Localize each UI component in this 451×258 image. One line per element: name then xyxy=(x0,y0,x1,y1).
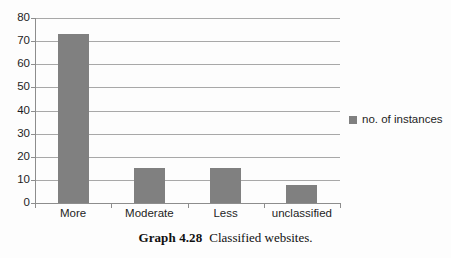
y-axis-line xyxy=(35,18,36,204)
y-axis-tick xyxy=(31,157,36,158)
bar-series-no-of-instances xyxy=(35,18,340,203)
y-axis-tick-label: 10 xyxy=(17,174,30,186)
y-axis-tick-label: 40 xyxy=(17,105,30,117)
bar xyxy=(286,185,317,204)
bar xyxy=(210,168,241,203)
y-axis-tick-label: 0 xyxy=(24,197,30,209)
y-axis-tick xyxy=(31,203,36,204)
y-axis-tick xyxy=(31,134,36,135)
bar-chart-figure: 01020304050607080 MoreModerateLessunclas… xyxy=(0,0,451,258)
legend-label: no. of instances xyxy=(362,114,443,126)
y-axis-tick xyxy=(31,87,36,88)
y-axis-tick xyxy=(31,64,36,65)
caption-text: Classified websites. xyxy=(209,230,312,245)
y-axis-tick xyxy=(31,41,36,42)
x-axis-category-label: More xyxy=(60,208,86,220)
figure-caption: Graph 4.28Classified websites. xyxy=(0,231,451,245)
bar xyxy=(134,168,165,203)
plot-area xyxy=(35,18,340,203)
x-axis-tick xyxy=(340,203,341,208)
x-axis-category-label: Less xyxy=(213,208,237,220)
legend-swatch-icon xyxy=(349,116,357,124)
chart-legend: no. of instances xyxy=(349,114,443,126)
bar xyxy=(58,34,89,203)
y-axis-tick-label: 50 xyxy=(17,82,30,94)
y-axis-tick xyxy=(31,111,36,112)
x-axis-category-labels: MoreModerateLessunclassified xyxy=(35,208,340,224)
y-axis-tick-label: 20 xyxy=(17,151,30,163)
x-axis-category-label: Moderate xyxy=(125,208,174,220)
y-axis-tick-label: 30 xyxy=(17,128,30,140)
caption-label: Graph 4.28 xyxy=(138,230,202,245)
y-axis-tick xyxy=(31,180,36,181)
x-axis-category-label: unclassified xyxy=(272,208,332,220)
y-axis-tick xyxy=(31,18,36,19)
y-axis-tick-label: 60 xyxy=(17,59,30,71)
y-axis-tick-label: 80 xyxy=(17,12,30,24)
y-axis-tick-label: 70 xyxy=(17,35,30,47)
